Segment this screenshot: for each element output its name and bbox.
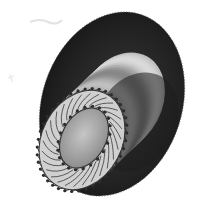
- arrow-head-icon: [104, 175, 107, 178]
- arrow-head-icon: [98, 88, 101, 91]
- arrow-head-icon: [74, 168, 77, 171]
- arrow-head-icon: [104, 90, 107, 93]
- arrow-head-icon: [106, 142, 109, 145]
- arrow-head-icon: [84, 87, 87, 90]
- arrow-head-icon: [102, 150, 105, 153]
- arrow-head-icon: [57, 140, 60, 143]
- arrow-head-icon: [77, 189, 80, 192]
- arrow-head-icon: [57, 187, 60, 190]
- hub-render-canvas: [0, 0, 214, 207]
- arrow-head-icon: [108, 133, 111, 136]
- arrow-head-icon: [103, 111, 106, 114]
- arrow-head-icon: [122, 109, 125, 112]
- arrow-head-icon: [39, 130, 42, 133]
- arrow-head-icon: [98, 180, 101, 183]
- arrow-head-icon: [62, 162, 65, 165]
- arrow-head-icon: [81, 167, 84, 170]
- arrow-head-icon: [96, 158, 99, 161]
- arrow-head-icon: [37, 161, 40, 164]
- arrow-head-icon: [69, 92, 72, 95]
- arrow-head-icon: [125, 131, 128, 134]
- arrow-head-icon: [124, 116, 127, 119]
- arrow-head-icon: [84, 187, 87, 190]
- rendered-3d-hub-image: [0, 0, 214, 207]
- arrow-head-icon: [39, 168, 42, 171]
- arrow-head-icon: [58, 156, 61, 159]
- arrow-head-icon: [56, 102, 59, 105]
- arrow-head-icon: [70, 190, 73, 193]
- arrow-head-icon: [63, 189, 66, 192]
- arrow-head-icon: [115, 98, 118, 101]
- arrow-head-icon: [51, 108, 54, 111]
- arrow-head-icon: [119, 103, 122, 106]
- arrow-head-icon: [91, 87, 94, 90]
- arrow-head-icon: [42, 122, 45, 125]
- arrow-head-icon: [76, 109, 79, 112]
- arrow-head-icon: [63, 97, 66, 100]
- arrow-head-icon: [119, 155, 122, 158]
- arrow-head-icon: [122, 147, 125, 150]
- arrow-head-icon: [89, 163, 92, 166]
- arrow-head-icon: [115, 162, 118, 165]
- arrow-head-icon: [98, 106, 101, 109]
- arrow-head-icon: [91, 184, 94, 187]
- arrow-head-icon: [42, 174, 45, 177]
- arrow-head-icon: [63, 123, 66, 126]
- arrow-head-icon: [109, 124, 112, 127]
- arrow-head-icon: [69, 115, 72, 118]
- arrow-head-icon: [51, 184, 54, 187]
- arrow-head-icon: [110, 93, 113, 96]
- arrow-head-icon: [46, 115, 49, 118]
- arrow-head-icon: [46, 179, 49, 182]
- arrow-head-icon: [125, 124, 128, 127]
- arrow-head-icon: [59, 131, 62, 134]
- arrow-head-icon: [76, 89, 79, 92]
- arrow-head-icon: [37, 138, 40, 141]
- arrow-head-icon: [36, 146, 39, 149]
- arrow-head-icon: [107, 117, 110, 120]
- arrow-head-icon: [56, 149, 59, 152]
- arrow-head-icon: [91, 105, 94, 108]
- arrow-head-icon: [67, 166, 70, 169]
- arrow-head-icon: [110, 169, 113, 172]
- arrow-head-icon: [83, 106, 86, 109]
- arrow-head-icon: [124, 139, 127, 142]
- arrow-head-icon: [36, 153, 39, 156]
